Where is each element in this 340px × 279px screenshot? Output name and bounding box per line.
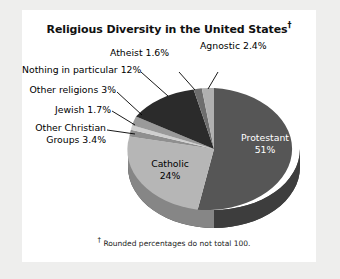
chart-panel: Religious Diversity in the United States…	[22, 10, 316, 262]
protestant-name: Protestant	[241, 132, 289, 143]
leader-line-agnostic	[208, 72, 218, 89]
callout-label-atheist: Atheist 1.6%	[110, 47, 169, 59]
other-christian-line-1: Other Christian	[35, 122, 106, 133]
slice-label-protestant: Protestant51%	[228, 132, 302, 155]
callout-label-other-religions: Other religions 3%	[22, 84, 116, 96]
protestant-value: 51%	[255, 144, 276, 155]
leader-line-nothing-in-particular	[141, 72, 168, 96]
pie-chart-figure: Religious Diversity in the United States…	[0, 0, 340, 279]
leader-line-jewish	[112, 111, 135, 125]
callout-label-nothing-in-particular: Nothing in particular 12%	[22, 64, 140, 76]
leader-line-atheist	[179, 72, 195, 90]
callout-label-other-christian-groups: Other ChristianGroups 3.4%	[22, 122, 106, 145]
footnote-text: Rounded percentages do not total 100.	[101, 239, 251, 248]
catholic-value: 24%	[160, 170, 181, 181]
slice-label-catholic: Catholic24%	[135, 158, 205, 181]
leader-line-other-religions	[117, 92, 142, 115]
other-christian-line-2: Groups 3.4%	[46, 134, 106, 145]
callout-label-agnostic: Agnostic 2.4%	[200, 40, 267, 52]
callout-label-jewish: Jewish 1.7%	[22, 104, 111, 116]
catholic-name: Catholic	[151, 158, 189, 169]
chart-footnote: † Rounded percentages do not total 100.	[34, 236, 314, 248]
